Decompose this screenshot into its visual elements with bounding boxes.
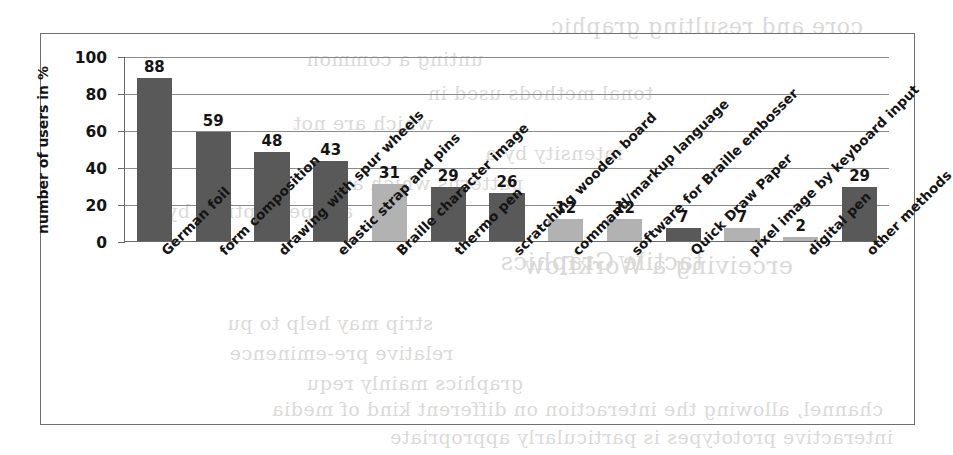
bar-value-label: 43 [320,141,341,159]
y-tick-label: 100 [75,49,107,67]
y-tick: 100 [118,57,125,58]
y-tick: 40 [118,168,125,169]
bar-value-label: 2 [796,217,806,235]
y-tick-label: 80 [85,86,107,104]
y-tick: 20 [118,205,125,206]
gridline [125,57,889,58]
bar-value-label: 48 [261,132,282,150]
y-tick-label: 60 [85,123,107,141]
bar-value-label: 31 [379,164,400,182]
y-tick: 80 [118,94,125,95]
y-tick: 0 [118,242,125,243]
y-tick-label: 0 [96,234,107,252]
y-tick-label: 40 [85,160,107,178]
y-axis-title: number of users in % [35,66,51,234]
y-tick: 60 [118,131,125,132]
bar-value-label: 29 [849,167,870,185]
y-tick-label: 20 [85,197,107,215]
bar-value-label: 88 [144,58,165,76]
bar: 88 [137,78,172,241]
gridline [125,94,889,95]
bar-value-label: 59 [203,112,224,130]
bar-chart: number of users in % 020406080100 885948… [0,0,953,455]
